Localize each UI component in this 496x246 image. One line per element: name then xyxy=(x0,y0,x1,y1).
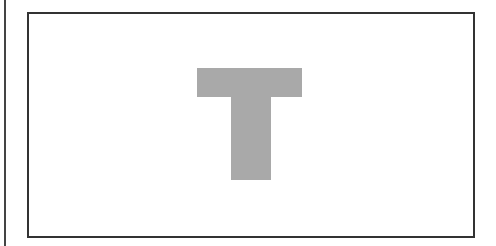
t-shape-top-bar xyxy=(197,68,302,97)
outer-frame-line xyxy=(4,0,6,246)
t-shape-stem xyxy=(231,96,271,180)
